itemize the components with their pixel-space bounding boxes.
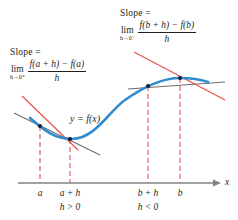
left-fraction-denominator: h [28,72,87,84]
calculus-figure: Slope = lim h→0⁺ f(a + h) − f(a) h Slope… [0,0,238,220]
condition-label-h-positive: h > 0 [54,202,86,212]
x-axis-arrowhead [213,180,221,187]
point-a-plus-h [68,137,72,141]
right-limit-main: lim [120,26,135,36]
tick-label-b: b [172,188,188,198]
right-slope-formula: Slope = lim h→0⁻ f(b + h) − f(b) h [120,8,196,45]
tick-label-b-plus-h: b + h [132,188,164,198]
dashed-verticals [40,78,180,183]
x-axis-label: x [225,177,229,187]
left-slope-word: Slope = [10,47,86,57]
left-limit-subscript: h→0⁺ [10,74,25,80]
point-b-plus-h [146,84,150,88]
left-slope-formula: Slope = lim h→0⁺ f(a + h) − f(a) h [10,47,86,84]
right-slope-word: Slope = [120,8,196,18]
tick-label-a: a [32,188,48,198]
plot-canvas [0,0,238,220]
right-fraction-numerator: f(b + h) − f(b) [138,20,197,32]
left-limit-row: lim h→0⁺ f(a + h) − f(a) h [10,59,86,84]
secant-b-line [134,52,225,100]
x-axis [18,180,221,187]
left-fraction: f(a + h) − f(a) h [28,59,87,84]
left-limit-main: lim [10,65,25,75]
tick-label-a-plus-h: a + h [54,188,86,198]
left-limit-operator: lim h→0⁺ [10,63,25,81]
condition-label-h-negative: h < 0 [132,202,164,212]
right-limit-operator: lim h→0⁻ [120,24,135,42]
right-fraction: f(b + h) − f(b) h [138,20,197,45]
point-b [178,76,182,80]
right-limit-row: lim h→0⁻ f(b + h) − f(b) h [120,20,196,45]
right-limit-subscript: h→0⁻ [120,35,135,41]
curve-label: y = f(x) [70,113,100,124]
right-fraction-denominator: h [138,33,197,45]
left-fraction-numerator: f(a + h) − f(a) [28,59,87,71]
point-a [38,124,42,128]
marked-points [38,76,182,141]
